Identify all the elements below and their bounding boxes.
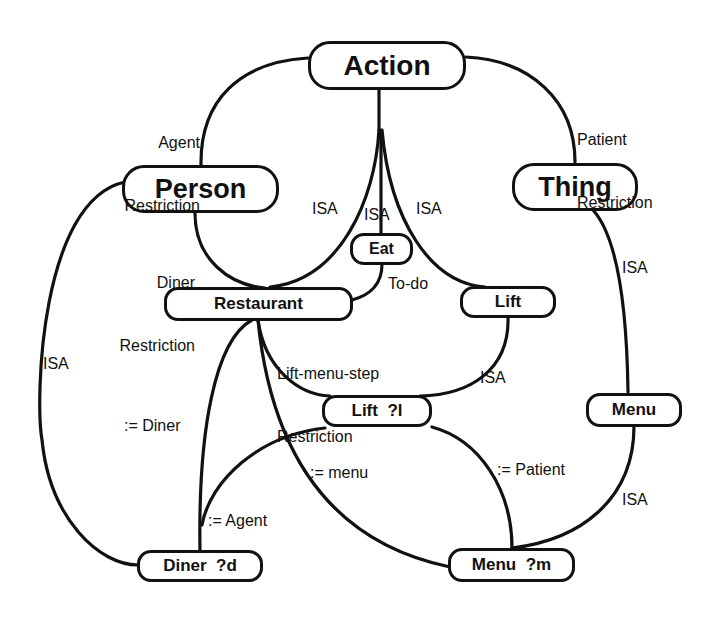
edge-to-do	[352, 264, 382, 300]
edge-diner-restriction	[195, 213, 265, 288]
label-isa-liftvar-lift: ISA	[480, 367, 506, 388]
label-diner-restriction: Diner Restriction	[115, 230, 195, 398]
label-agent-line2: Restriction	[120, 195, 200, 216]
label-to-do: To-do	[388, 273, 428, 294]
label-patient-line1: Patient	[577, 129, 653, 150]
label-patient-restriction: Patient Restriction	[577, 87, 653, 255]
label-isa-eat-action: ISA	[364, 204, 390, 225]
edge-agent-restriction	[201, 58, 308, 165]
node-menu[interactable]: Menu	[586, 393, 682, 427]
label-diner-line2: Restriction	[115, 335, 195, 356]
node-lift[interactable]: Lift	[460, 286, 556, 318]
label-lms-line1: Lift-menu-step	[277, 363, 379, 384]
label-patient-line2: Restriction	[577, 192, 653, 213]
node-action[interactable]: Action	[308, 41, 466, 90]
node-eat[interactable]: Eat	[350, 233, 413, 265]
label-assign-menu: := menu	[310, 462, 368, 483]
label-isa-menuvar-menu: ISA	[622, 489, 648, 510]
edge-isa-menuvar-menu	[512, 426, 634, 548]
label-lms-line2: Restriction	[277, 426, 379, 447]
label-diner-line1: Diner	[115, 272, 195, 293]
label-assign-patient: := Patient	[497, 459, 565, 480]
label-isa-menu-thing: ISA	[622, 257, 648, 278]
label-assign-diner: := Diner	[124, 415, 180, 436]
label-isa-lift-action: ISA	[416, 198, 442, 219]
label-assign-agent: := Agent	[208, 510, 267, 531]
edge-assign-patient	[432, 427, 512, 548]
edge-patient-restriction	[466, 57, 575, 162]
node-diner-var[interactable]: Diner ?d	[137, 550, 263, 582]
label-agent-line1: Agent	[120, 132, 200, 153]
label-isa-restaurant-action: ISA	[312, 198, 338, 219]
node-menu-var[interactable]: Menu ?m	[448, 548, 575, 582]
semantic-network-diagram: Action Person Thing Eat Restaurant Lift …	[0, 0, 721, 622]
label-isa-diner-person: ISA	[43, 353, 69, 374]
